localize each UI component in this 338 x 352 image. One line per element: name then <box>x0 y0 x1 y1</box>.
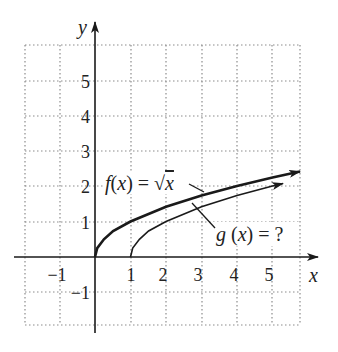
svg-text:5: 5 <box>81 72 90 92</box>
chart: y x −1 1 2 3 4 5 5 4 3 2 1 −1 f(x) = √x … <box>0 0 338 352</box>
svg-text:1: 1 <box>81 213 90 233</box>
svg-text:3: 3 <box>194 265 203 285</box>
x-tick-labels: −1 1 2 3 4 5 <box>47 265 273 285</box>
svg-text:1: 1 <box>127 265 136 285</box>
y-axis-label: y <box>76 16 87 39</box>
f-label: f(x) = √x <box>105 172 174 195</box>
x-axis-label: x <box>308 264 318 286</box>
svg-text:4: 4 <box>230 265 239 285</box>
g-label: g (x) = ? <box>216 223 284 246</box>
y-tick-labels: 5 4 3 2 1 −1 <box>71 72 90 303</box>
svg-text:3: 3 <box>81 142 90 162</box>
svg-text:2: 2 <box>159 265 168 285</box>
svg-text:−1: −1 <box>71 283 90 303</box>
svg-text:−1: −1 <box>47 265 66 285</box>
svg-text:5: 5 <box>265 265 274 285</box>
svg-text:4: 4 <box>81 107 90 127</box>
svg-text:2: 2 <box>81 177 90 197</box>
